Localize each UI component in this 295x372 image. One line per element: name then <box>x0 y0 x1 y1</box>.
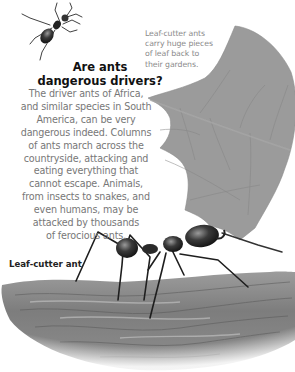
body-line: countryside, attacking and <box>2 153 170 166</box>
body-line: attacked by thousands <box>2 217 170 230</box>
heading-line-2: dangerous drivers? <box>30 74 170 88</box>
caption-line: their gardens. <box>145 60 215 70</box>
book-page: Are ants dangerous drivers? The driver a… <box>0 0 295 372</box>
body-line: even humans, may be <box>2 204 170 217</box>
body-line: and similar species in South <box>2 101 170 114</box>
caption-line: carry huge pieces <box>145 39 215 49</box>
caption-line: of leaf back to <box>145 49 215 59</box>
body-line: of ants march across the <box>2 140 170 153</box>
caption-line: Leaf-cutter ants <box>145 29 215 39</box>
body-paragraph: The driver ants of Africa, and similar s… <box>2 88 170 243</box>
body-line: cannot escape. Animals, <box>2 178 170 191</box>
body-line: The driver ants of Africa, <box>2 88 170 101</box>
illustration-label: Leaf-cutter ant <box>9 259 82 269</box>
body-line: dangerous indeed. Columns <box>2 127 170 140</box>
branch-illustration <box>0 265 295 372</box>
body-line: eating everything that <box>2 165 170 178</box>
leaf-caption: Leaf-cutter ants carry huge pieces of le… <box>145 29 215 70</box>
driver-ant-illustration <box>22 3 82 60</box>
body-line: America, can be very <box>2 114 170 127</box>
body-line: of ferocious ants. <box>2 230 170 243</box>
body-line: from insects to snakes, and <box>2 191 170 204</box>
